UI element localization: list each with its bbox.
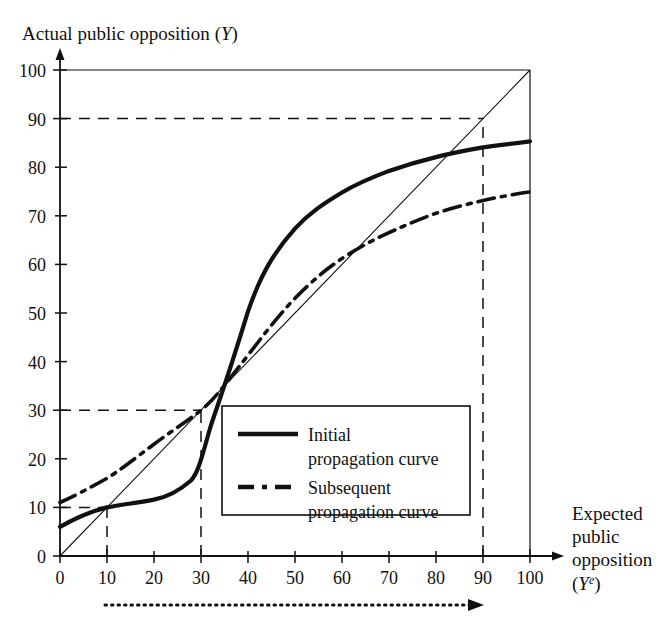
y-tick-label: 10 — [28, 498, 46, 518]
x-tick-label: 20 — [145, 568, 163, 588]
y-tick-label: 100 — [19, 61, 46, 81]
x-tick-label: 40 — [239, 568, 257, 588]
chart-figure: Actual public opposition (Y) 100 90 — [0, 0, 672, 633]
y-tick-label: 20 — [28, 450, 46, 470]
x-tick-label: 80 — [427, 568, 445, 588]
x-tick-label: 30 — [192, 568, 210, 588]
y-tick-label: 0 — [37, 547, 46, 567]
x-tick-label: 90 — [474, 568, 492, 588]
legend-label-initial-line1: Initial — [308, 425, 351, 445]
legend-label-subsequent-line1: Subsequent — [308, 478, 391, 498]
x-axis-title-symbol: (Ye) — [572, 573, 601, 595]
y-tick-label: 90 — [28, 110, 46, 130]
y-tick-label: 70 — [28, 207, 46, 227]
x-tick-label: 0 — [56, 568, 65, 588]
y-tick-label: 80 — [28, 158, 46, 178]
dynamics-arrow-annotation — [105, 599, 484, 611]
legend-label-initial-line2: propagation curve — [308, 449, 438, 469]
y-axis-title-text: Actual public opposition — [22, 23, 210, 44]
y-tick-label: 40 — [28, 353, 46, 373]
x-tick-label: 70 — [380, 568, 398, 588]
x-axis-arrowhead — [552, 552, 564, 561]
y-tick-label: 60 — [28, 255, 46, 275]
x-axis-tick-labels: 0 10 20 30 40 50 60 70 80 90 100 — [56, 568, 544, 588]
y-tick-label: 50 — [28, 304, 46, 324]
x-tick-label: 100 — [517, 568, 544, 588]
y-axis-title: Actual public opposition (Y) — [22, 23, 238, 45]
x-axis-title-line2: public — [572, 526, 620, 547]
dotted-arrow-head — [468, 599, 484, 611]
y-tick-label: 30 — [28, 401, 46, 421]
chart-legend: Initial propagation curve Subsequent pro… — [222, 406, 470, 522]
x-axis-title-line1: Expected — [572, 503, 643, 524]
x-tick-label: 50 — [286, 568, 304, 588]
y-axis-tick-labels: 100 90 80 70 60 50 40 30 20 10 0 — [19, 61, 46, 567]
x-axis-title: Expected public opposition (Ye) — [572, 503, 653, 595]
chart-canvas: Actual public opposition (Y) 100 90 — [0, 0, 672, 633]
x-tick-label: 10 — [98, 568, 116, 588]
y-axis-arrowhead — [56, 48, 65, 60]
x-axis-title-line3: opposition — [572, 549, 653, 570]
x-tick-label: 60 — [333, 568, 351, 588]
legend-label-subsequent-line2: propagation curve — [308, 502, 438, 522]
